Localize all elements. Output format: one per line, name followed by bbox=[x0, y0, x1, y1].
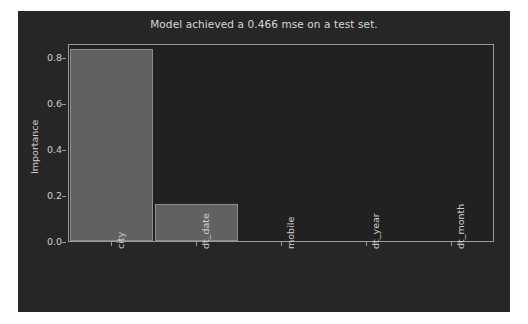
chart-figure: Model achieved a 0.466 mse on a test set… bbox=[18, 11, 510, 312]
x-tick-label-dt_month: dt_month bbox=[455, 204, 466, 249]
page-root: Model achieved a 0.466 mse on a test set… bbox=[0, 0, 528, 324]
x-tick-label-dt_date: dt_date bbox=[200, 213, 211, 249]
y-axis-ticks: 0.00.20.40.60.8 bbox=[18, 11, 62, 312]
bars-layer bbox=[69, 45, 493, 241]
x-tick-mark bbox=[366, 242, 367, 246]
bar-dt_date bbox=[155, 204, 238, 241]
y-tick-mark bbox=[62, 242, 66, 243]
x-tick-mark bbox=[111, 242, 112, 246]
chart-title: Model achieved a 0.466 mse on a test set… bbox=[18, 18, 510, 30]
x-axis-ticks: citydt_datemobiledt_yeardt_month bbox=[68, 242, 494, 312]
x-tick-label-city: city bbox=[115, 232, 126, 249]
y-tick-label: 0.2 bbox=[22, 190, 62, 201]
y-tick-label: 0.8 bbox=[22, 52, 62, 63]
x-tick-mark bbox=[196, 242, 197, 246]
y-tick-mark bbox=[62, 104, 66, 105]
plot-area bbox=[68, 44, 494, 242]
y-tick-label: 0.4 bbox=[22, 144, 62, 155]
x-tick-mark bbox=[451, 242, 452, 246]
bar-city bbox=[70, 49, 153, 241]
y-tick-label: 0.0 bbox=[22, 236, 62, 247]
y-tick-label: 0.6 bbox=[22, 98, 62, 109]
x-tick-mark bbox=[281, 242, 282, 246]
x-tick-label-mobile: mobile bbox=[285, 217, 296, 249]
x-tick-label-dt_year: dt_year bbox=[370, 213, 381, 249]
y-tick-mark bbox=[62, 58, 66, 59]
y-tick-mark bbox=[62, 150, 66, 151]
y-tick-mark bbox=[62, 196, 66, 197]
